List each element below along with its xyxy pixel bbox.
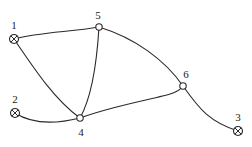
- node-label-5: 5: [95, 9, 101, 21]
- node-label-1: 1: [11, 19, 17, 31]
- node-1: [10, 35, 19, 44]
- edge-1-5: [14, 27, 99, 39]
- edge-5-6: [99, 27, 183, 86]
- edge-1-4: [14, 39, 80, 118]
- node-6: [180, 83, 186, 89]
- edge-6-3: [183, 86, 238, 131]
- node-4: [77, 115, 83, 121]
- node-label-4: 4: [78, 126, 84, 138]
- edge-2-4: [15, 113, 80, 122]
- node-3: [234, 127, 243, 136]
- edge-5-4: [80, 27, 99, 118]
- node-2: [11, 109, 20, 118]
- node-label-2: 2: [12, 93, 18, 105]
- node-5: [96, 24, 102, 30]
- network-diagram: 1 2 3 4 5 6: [0, 0, 252, 147]
- node-label-3: 3: [235, 111, 241, 123]
- node-label-6: 6: [183, 68, 189, 80]
- edge-4-6: [80, 86, 183, 118]
